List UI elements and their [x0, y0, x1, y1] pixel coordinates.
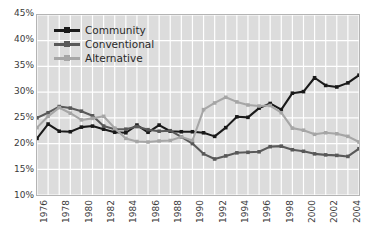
x-tick-label: 1988	[174, 200, 183, 223]
x-tick-label: 1986	[152, 200, 161, 223]
chart-legend: Community Conventional Alternative	[54, 24, 154, 64]
legend-swatch-alternative	[54, 53, 80, 63]
x-tick-label: 1992	[219, 200, 228, 223]
legend-label-community: Community	[85, 25, 146, 36]
x-tick-label: 1980	[85, 200, 94, 223]
y-tick-label: 10%	[0, 191, 34, 200]
x-tick-label: 1976	[40, 200, 49, 223]
x-tick-label: 1996	[263, 200, 272, 223]
x-tick-label: 1982	[107, 200, 116, 223]
legend-label-conventional: Conventional	[85, 39, 154, 50]
legend-swatch-conventional	[54, 39, 80, 49]
x-tick-label: 1994	[241, 200, 250, 223]
y-tick-label: 30%	[0, 87, 34, 96]
x-tick-label: 2002	[330, 200, 339, 223]
x-tick-label: 2000	[308, 200, 317, 223]
y-tick-label: 45%	[0, 9, 34, 18]
legend-swatch-community	[54, 25, 80, 35]
legend-item-conventional: Conventional	[54, 38, 154, 50]
y-tick-label: 20%	[0, 139, 34, 148]
legend-item-alternative: Alternative	[54, 52, 154, 64]
x-tick-label: 2004	[353, 200, 362, 223]
y-tick-label: 40%	[0, 35, 34, 44]
y-tick-label: 25%	[0, 113, 34, 122]
x-tick-label: 1978	[62, 200, 71, 223]
y-tick-label: 15%	[0, 165, 34, 174]
legend-label-alternative: Alternative	[85, 53, 143, 64]
line-chart: 45%40%35%30%25%20%15%10% 197619781980198…	[0, 0, 374, 246]
x-tick-label: 1998	[286, 200, 295, 223]
y-tick-label: 35%	[0, 61, 34, 70]
x-tick-label: 1984	[129, 200, 138, 223]
legend-item-community: Community	[54, 24, 154, 36]
x-tick-label: 1990	[196, 200, 205, 223]
x-axis: 1976197819801982198419861988199019921994…	[36, 198, 360, 246]
